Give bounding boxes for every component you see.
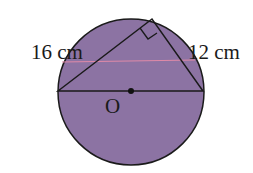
circle-diagram: 16 cm 12 cm O — [0, 0, 253, 173]
left-side-label: 16 cm — [31, 40, 83, 64]
center-point — [128, 88, 134, 94]
center-label: O — [105, 94, 120, 118]
right-side-label: 12 cm — [188, 40, 240, 64]
